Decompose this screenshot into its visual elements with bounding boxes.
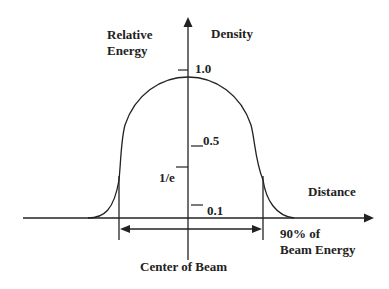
x-axis-arrowhead [364,214,374,223]
width-arrowhead-left [120,225,130,233]
width-label-line2: Beam Energy [280,242,355,257]
tick-label-1-over-e: 1/e [159,170,175,185]
density-label: Density [211,26,253,41]
y-axis-arrowhead [184,17,193,27]
y-axis-label-line2: Energy [107,43,147,58]
width-arrowhead-right [252,225,262,233]
width-label-line1: 90% of [280,226,320,241]
x-axis-label: Distance [308,184,356,199]
y-axis-label-line1: Relative [107,27,152,42]
tick-label-1.0: 1.0 [195,61,211,76]
center-of-beam-label: Center of Beam [140,259,227,274]
tick-label-0.5: 0.5 [203,133,219,148]
tick-label-0.1: 0.1 [207,203,223,218]
